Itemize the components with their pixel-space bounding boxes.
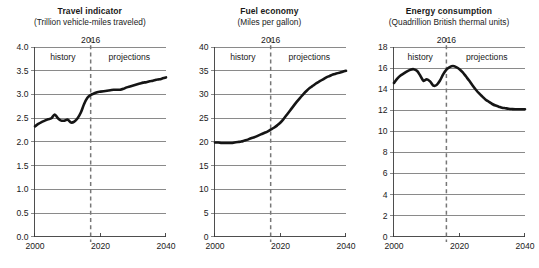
gridlines-group [215,47,346,213]
x-axis-labels: 200020202040 [25,233,175,251]
y-tick-label: 4.0 [17,42,29,52]
y-tick-label: 15 [199,161,209,171]
data-line-1 [215,71,346,143]
x-axis-labels: 200020202040 [205,233,355,251]
y-tick-label: 40 [199,42,209,52]
chart-plot-area: 05101520253035402000202020402016historyp… [180,0,360,268]
history-label: history [408,52,434,62]
y-tick-label: 2 [383,211,388,221]
y-tick-label: 30 [199,89,209,99]
x-tick-label: 2000 [205,241,224,251]
history-label: history [230,52,256,62]
y-tick-label: 3.0 [17,89,29,99]
history-label: history [50,52,76,62]
y-tick-label: 6 [383,168,388,178]
y-tick-label: 14 [378,84,388,94]
projections-label: projections [109,52,150,62]
projections-label: projections [466,52,507,62]
marker-year-label: 2016 [437,36,456,46]
projections-label: projections [288,52,329,62]
marker-year-label: 2016 [261,36,280,46]
chart-panel-3: Energy consumption(Quadrillion British t… [359,0,539,268]
y-tick-label: 4 [383,190,388,200]
chart-panel-2: Fuel economy(Miles per gallon)0510152025… [180,0,360,268]
data-line-1 [35,77,166,126]
y-tick-label: 3.5 [17,66,29,76]
y-tick-label: 8 [383,147,388,157]
y-tick-label: 12 [378,105,388,115]
chart-plot-area: 0246810121416182000202020402016historypr… [359,0,539,268]
chart-plot-area: 0.00.51.01.52.02.53.03.54.02000202020402… [0,0,180,268]
y-tick-label: 10 [199,184,209,194]
y-axis-labels: 0510152025303540 [199,42,215,242]
y-tick-label: 2.0 [17,137,29,147]
y-tick-label: 16 [378,63,388,73]
x-axis-labels: 200020202040 [385,233,535,251]
gridlines-group [35,47,166,213]
y-tick-label: 25 [199,113,209,123]
y-tick-label: 20 [199,137,209,147]
x-tick-label: 2020 [91,241,110,251]
y-tick-label: 1.0 [17,184,29,194]
x-tick-label: 2000 [385,241,404,251]
y-tick-label: 10 [378,126,388,136]
data-line-1 [394,66,525,109]
y-tick-label: 35 [199,66,209,76]
x-tick-label: 2040 [156,241,175,251]
y-axis-labels: 024681012141618 [378,42,394,242]
y-axis-labels: 0.00.51.01.52.02.53.03.54.0 [17,42,35,242]
x-tick-label: 2020 [450,241,469,251]
y-tick-label: 5 [203,208,208,218]
y-tick-label: 18 [378,42,388,52]
y-tick-label: 1.5 [17,161,29,171]
y-tick-label: 2.5 [17,113,29,123]
gridlines-group [394,47,525,216]
x-tick-label: 2020 [271,241,290,251]
y-tick-label: 0.5 [17,208,29,218]
x-tick-label: 2040 [516,241,535,251]
marker-year-label: 2016 [81,36,100,46]
x-tick-label: 2040 [336,241,355,251]
chart-panel-1: Travel indicator(Trillion vehicle-miles … [0,0,180,268]
energy-outlook-figure: Travel indicator(Trillion vehicle-miles … [0,0,539,268]
x-tick-label: 2000 [25,241,44,251]
